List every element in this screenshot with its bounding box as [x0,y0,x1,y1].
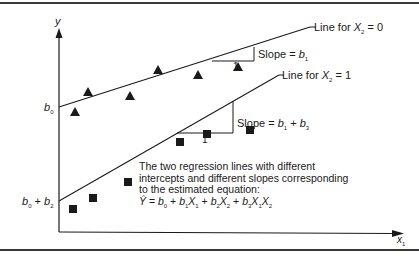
diagram-canvas [0,0,419,257]
line-label-eq: = 1 [332,69,351,81]
square-marker-icon [69,205,77,213]
b0-sub: 0 [50,109,53,115]
slope-label-lower: Slope = b1 + b3 [237,117,309,134]
y-axis-label: y [55,15,61,27]
slope-run-lower: 1 [202,134,208,146]
intercept-upper-label: b0 [44,101,53,118]
triangle-marker-icon [193,70,203,79]
x-axis [59,232,395,234]
triangle-marker-icon [70,107,80,116]
line-label-prefix: Line for [314,21,354,33]
slope-run-upper: 1 [233,61,239,73]
line-x2-0 [59,27,310,107]
square-marker-icon [176,138,184,146]
x2-symbol: X [220,195,227,207]
line-label-var: X [322,69,329,81]
plus-sign: + [167,195,179,207]
square-marker-icon [124,178,132,186]
intercept-lower-label: b0 + b2 [22,195,53,212]
line-label-eq: = 0 [364,21,383,33]
line-label-var: X [354,21,361,33]
triangle-marker-icon [83,87,93,96]
caption-line-1: The two regression lines with different [139,161,348,173]
x-axis-label-sub: 1 [402,241,405,247]
caption-note: The two regression lines with different … [139,161,348,212]
slope-prefix: Slope = [237,117,278,129]
plus-sign: + [199,195,211,207]
line-label-x2-1: Line for X2 = 1 [282,69,351,86]
yhat-symbol: Ŷ [139,195,146,207]
line-label-x2-0: Line for X2 = 0 [314,21,383,38]
plus-sign: + [31,195,44,207]
b2-sub: 2 [50,203,53,209]
slope-triangle-upper [212,47,254,61]
b3-sub: 3 [306,125,309,131]
line-label-prefix: Line for [282,69,322,81]
triangle-marker-icon [153,65,163,74]
y-axis-arrow-icon [56,28,63,38]
slope-label-upper: Slope = b1 [258,48,308,65]
plus-sign: + [287,117,300,129]
plus-sign: + [230,195,242,207]
x-axis-label: x1 [397,234,405,250]
b1-sub: 1 [305,56,308,62]
estimated-equation: Ŷ = b0 + b1X1 + b2X2 + b3X1X2 [139,196,348,213]
equals-sign: = [146,195,158,207]
square-marker-icon [89,194,97,202]
slope-prefix: Slope = [258,48,299,60]
x2-sub: 2 [269,203,272,209]
triangle-marker-icon [125,91,135,100]
triangle-markers [70,62,243,116]
x2-symbol: X [262,195,269,207]
